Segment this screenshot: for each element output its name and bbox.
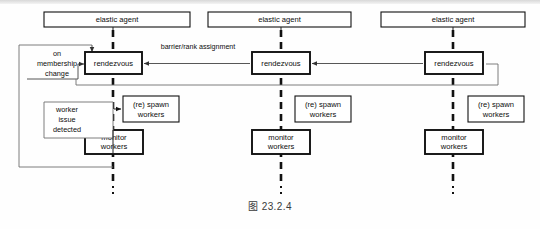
worker-issue-line-3: detected bbox=[53, 125, 81, 134]
barrier-rank-assignment-label: barrier/rank assignment bbox=[161, 43, 236, 51]
elastic-agent-label-3: elastic agent bbox=[432, 15, 476, 24]
respawn-workers-label-3b: workers bbox=[482, 110, 510, 119]
worker-issue-line-2: issue bbox=[58, 115, 75, 124]
respawn-workers-label-3a: (re) spawn bbox=[478, 100, 514, 109]
worker-issue-line-1: worker bbox=[55, 105, 78, 114]
monitor-workers-label-2b: workers bbox=[267, 142, 295, 151]
elastic-agent-rendezvous-diagram: elastic agent rendezvous (re) spawn work… bbox=[0, 0, 540, 229]
membership-note-line-1: on bbox=[53, 49, 61, 58]
elastic-agent-label-1: elastic agent bbox=[96, 15, 140, 24]
membership-note-line-2: membership bbox=[37, 59, 77, 68]
note-on-membership-change: on membership change bbox=[37, 49, 77, 78]
respawn-workers-label-2b: workers bbox=[309, 110, 337, 119]
column-agent-2: elastic agent rendezvous (re) spawn work… bbox=[208, 12, 351, 154]
elastic-agent-label-2: elastic agent bbox=[258, 15, 302, 24]
figure-page: elastic agent rendezvous (re) spawn work… bbox=[0, 0, 540, 229]
figure-caption: 图 23.2.4 bbox=[0, 198, 540, 213]
monitor-workers-label-1b: workers bbox=[100, 142, 128, 151]
rendezvous-label-3: rendezvous bbox=[434, 59, 473, 68]
monitor-workers-label-3a: monitor bbox=[441, 133, 467, 142]
monitor-workers-label-2a: monitor bbox=[268, 133, 294, 142]
rendezvous-label-2: rendezvous bbox=[261, 59, 300, 68]
rendezvous-label-1: rendezvous bbox=[94, 59, 133, 68]
membership-note-line-3: change bbox=[45, 69, 69, 78]
respawn-workers-label-2a: (re) spawn bbox=[305, 100, 341, 109]
monitor-workers-label-3b: workers bbox=[440, 142, 468, 151]
note-worker-issue-detected: worker issue detected bbox=[44, 102, 113, 138]
respawn-workers-label-1b: workers bbox=[137, 110, 165, 119]
respawn-workers-label-1a: (re) spawn bbox=[133, 100, 169, 109]
